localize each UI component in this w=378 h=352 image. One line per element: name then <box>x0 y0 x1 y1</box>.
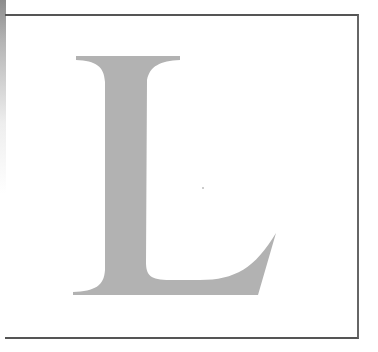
letter-l-glyph <box>0 0 378 352</box>
speck <box>202 187 204 189</box>
